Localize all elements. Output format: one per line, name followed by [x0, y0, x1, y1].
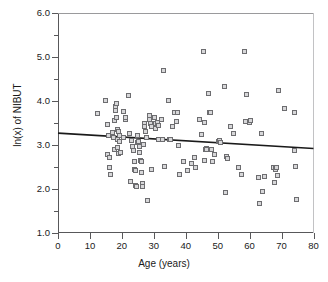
x-axis-label: Age (years)	[0, 259, 328, 269]
scatter-plot-figure: 1.02.03.04.05.06.001020304050607080 Age …	[0, 0, 328, 282]
y-axis-label: ln(x) of NIBUT	[13, 45, 23, 185]
regression-line	[0, 0, 328, 282]
